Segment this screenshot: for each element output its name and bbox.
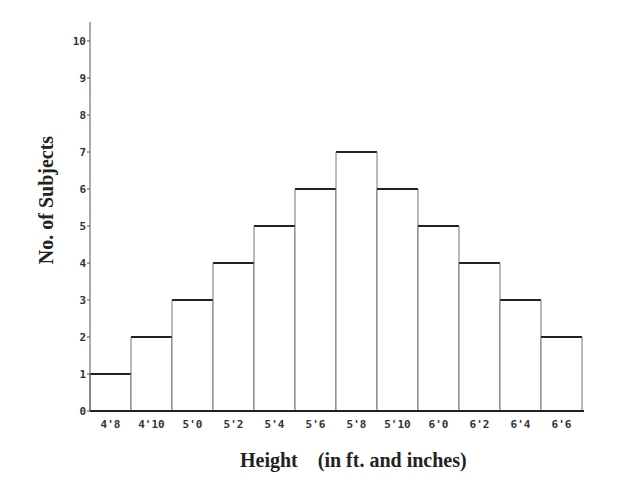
y-axis: 012345678910 [73,22,90,418]
x-tick-label: 5'0 [183,418,203,431]
x-tick-label: 5'10 [384,418,411,431]
x-tick-label: 5'8 [347,418,367,431]
bar-5'6 [295,189,336,411]
bar-5'8 [336,152,377,411]
y-tick-label: 3 [79,294,86,307]
bar-4'10 [131,337,172,411]
x-tick-label: 6'0 [429,418,449,431]
x-axis-label: Height (in ft. and inches) [240,449,467,472]
x-tick-label: 5'4 [265,418,285,431]
bar-4'8 [90,374,131,411]
x-tick-label: 6'4 [511,418,531,431]
y-tick-label: 4 [79,257,86,270]
x-tick-label: 6'2 [470,418,490,431]
bar-5'4 [254,226,295,411]
bars-group [90,152,582,411]
y-tick-label: 10 [73,35,86,48]
y-tick-label: 7 [79,146,86,159]
bar-6'6 [541,337,582,411]
bar-5'0 [172,300,213,411]
histogram-chart: 012345678910 4'84'105'05'25'45'65'85'106… [0,0,618,497]
x-tick-label: 5'2 [224,418,244,431]
y-tick-label: 5 [79,220,86,233]
x-axis: 4'84'105'05'25'45'65'85'106'06'26'46'6 [90,411,584,431]
x-tick-label: 6'6 [552,418,572,431]
y-tick-label: 9 [79,72,86,85]
y-tick-label: 6 [79,183,86,196]
y-tick-label: 8 [79,109,86,122]
y-axis-label: No. of Subjects [35,136,58,264]
bar-6'2 [459,263,500,411]
bar-5'2 [213,263,254,411]
y-tick-label: 0 [79,405,86,418]
y-tick-label: 2 [79,331,86,344]
x-tick-label: 4'8 [101,418,121,431]
bar-6'0 [418,226,459,411]
x-tick-label: 5'6 [306,418,326,431]
bar-6'4 [500,300,541,411]
y-tick-label: 1 [79,368,86,381]
bar-5'10 [377,189,418,411]
x-tick-label: 4'10 [138,418,165,431]
